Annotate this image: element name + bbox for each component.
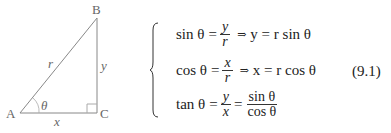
equation-number: (9.1) xyxy=(352,63,381,80)
side-r-label: r xyxy=(48,56,53,72)
fraction-x-over-r: xr xyxy=(222,56,232,85)
triangle-diagram xyxy=(0,0,135,133)
equation-sin: sin θ = yr ⇒ y = r sin θ xyxy=(176,20,311,49)
sin-rhs: y = r sin θ xyxy=(250,26,311,43)
equals: = xyxy=(208,26,216,43)
equals: = xyxy=(234,96,242,113)
angle-theta-label: θ xyxy=(41,98,47,114)
implies-arrow: ⇒ xyxy=(237,28,246,41)
vertex-a-label: A xyxy=(6,106,15,122)
tan-lhs: tan θ xyxy=(176,96,205,113)
right-angle-marker xyxy=(87,104,97,113)
angle-arc xyxy=(33,98,39,113)
implies-arrow: ⇒ xyxy=(240,64,249,77)
fraction-sin-over-cos: sin θcos θ xyxy=(245,90,278,119)
sin-lhs: sin θ xyxy=(176,26,204,43)
vertex-b-label: B xyxy=(92,2,101,18)
fraction-y-over-r: yr xyxy=(220,20,230,49)
right-triangle-figure: B C A r y x θ xyxy=(0,0,135,133)
vertex-c-label: C xyxy=(100,106,109,122)
side-x-label: x xyxy=(54,114,60,130)
equals: = xyxy=(211,62,219,79)
equation-tan: tan θ = yx = sin θcos θ xyxy=(176,90,281,119)
cos-rhs: x = r cos θ xyxy=(253,62,316,79)
left-brace xyxy=(150,22,160,118)
fraction-y-over-x: yx xyxy=(221,90,231,119)
cos-lhs: cos θ xyxy=(176,62,207,79)
equation-cos: cos θ = xr ⇒ x = r cos θ xyxy=(176,56,316,85)
equals: = xyxy=(209,96,217,113)
side-y-label: y xyxy=(101,58,107,74)
